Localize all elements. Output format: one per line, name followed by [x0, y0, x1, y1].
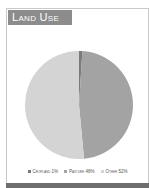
legend-swatch	[101, 170, 104, 173]
pie-slice-pasture	[79, 51, 133, 159]
pie-chart	[24, 50, 134, 160]
legend-item-other: Other 52%	[101, 169, 128, 174]
legend-swatch	[64, 170, 67, 173]
legend-item-pasture: Pasture 48%	[64, 169, 94, 174]
legend-swatch	[28, 170, 31, 173]
legend-label: Cropland 1%	[33, 169, 59, 174]
bottom-band	[6, 183, 149, 188]
chart-legend: Cropland 1% Pasture 48% Other 52%	[10, 169, 145, 174]
legend-label: Pasture 48%	[69, 169, 94, 174]
chart-title: Land Use	[8, 10, 72, 25]
pie-slice-other	[25, 51, 84, 159]
legend-label: Other 52%	[106, 169, 128, 174]
legend-item-cropland: Cropland 1%	[28, 169, 59, 174]
